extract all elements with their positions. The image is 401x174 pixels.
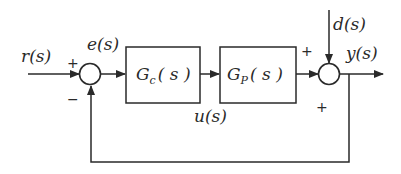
label-disturbance: d(s) <box>333 14 366 34</box>
label-reference: r(s) <box>21 46 51 66</box>
sign-left-plus: + <box>67 55 79 71</box>
block-diagram: r(s) e(s) u(s) d(s) y(s) Gc( s ) GP( s )… <box>0 0 401 174</box>
sign-right-plus-top: + <box>301 43 313 59</box>
sign-left-minus: − <box>67 91 79 107</box>
summing-junction-right <box>319 64 340 85</box>
label-output: y(s) <box>345 43 378 63</box>
label-control: u(s) <box>194 106 227 126</box>
label-error: e(s) <box>87 34 119 54</box>
controller-label: Gc( s ) <box>136 64 191 87</box>
sign-right-plus-bottom: + <box>316 99 328 115</box>
summing-junction-left <box>80 64 101 85</box>
plant-label: GP( s ) <box>227 64 283 87</box>
